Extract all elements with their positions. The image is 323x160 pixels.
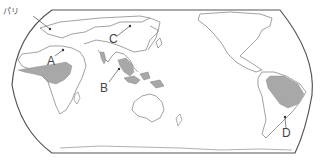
label-c: C <box>109 33 118 45</box>
world-map <box>0 0 323 160</box>
a-marker <box>62 49 64 51</box>
c-marker <box>129 25 131 27</box>
b-marker <box>118 68 120 70</box>
d-marker <box>284 116 286 118</box>
label-d: D <box>282 127 291 139</box>
label-paris: パリ <box>3 8 19 16</box>
label-b: B <box>100 82 108 94</box>
paris-marker <box>49 28 51 30</box>
label-a: A <box>47 55 55 67</box>
